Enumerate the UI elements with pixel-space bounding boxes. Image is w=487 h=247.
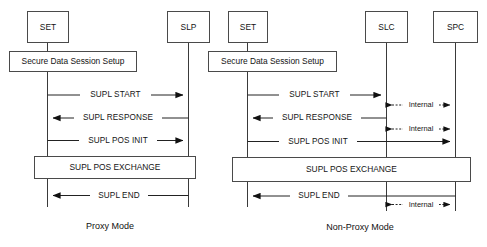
- actor-label-spc-nonproxy: SPC: [447, 22, 464, 32]
- message-internal-2-nonproxy: Internal: [392, 124, 450, 134]
- diagram-canvas: SET SLP Secure Data Session Setup SUPL S…: [0, 0, 487, 247]
- message-label-internal-1-nonproxy: Internal: [409, 100, 434, 109]
- actor-label-set-nonproxy: SET: [240, 22, 256, 32]
- message-label-supl-start-proxy: SUPL START: [90, 90, 140, 99]
- message-label-supl-response-proxy: SUPL RESPONSE: [83, 113, 154, 122]
- message-label-internal-3-nonproxy: Internal: [409, 200, 434, 209]
- bar-label-secure-data-session-setup-proxy: Secure Data Session Setup: [22, 56, 125, 66]
- bar-label-supl-pos-exchange-nonproxy: SUPL POS EXCHANGE: [306, 164, 397, 174]
- message-label-supl-end-proxy: SUPL END: [98, 191, 139, 200]
- message-label-supl-start-nonproxy: SUPL START: [289, 90, 339, 99]
- actor-label-slc-nonproxy: SLC: [378, 22, 394, 32]
- message-supl-response-nonproxy: SUPL RESPONSE: [253, 113, 387, 124]
- proxy-mode-diagram: SET SLP Secure Data Session Setup SUPL S…: [10, 12, 210, 232]
- message-internal-1-nonproxy: Internal: [392, 100, 450, 110]
- caption-proxy-mode: Proxy Mode: [86, 221, 134, 231]
- actor-label-set-proxy: SET: [40, 22, 56, 32]
- message-label-internal-2-nonproxy: Internal: [409, 124, 434, 133]
- message-supl-start-proxy: SUPL START: [48, 90, 184, 101]
- message-label-supl-response-nonproxy: SUPL RESPONSE: [282, 113, 353, 122]
- bar-label-secure-data-session-setup-nonproxy: Secure Data Session Setup: [221, 56, 324, 66]
- sequence-diagram-figure: SET SLP Secure Data Session Setup SUPL S…: [0, 0, 487, 247]
- message-supl-response-proxy: SUPL RESPONSE: [53, 113, 189, 124]
- message-label-supl-end-nonproxy: SUPL END: [298, 191, 339, 200]
- non-proxy-mode-diagram: SET SLC SPC Secure Data Session Setup SU…: [209, 12, 478, 233]
- message-label-supl-pos-init-nonproxy: SUPL POS INIT: [288, 137, 348, 146]
- message-supl-pos-init-nonproxy: SUPL POS INIT: [248, 136, 451, 147]
- message-internal-3-nonproxy: Internal: [392, 200, 450, 210]
- message-label-supl-pos-init-proxy: SUPL POS INIT: [88, 136, 148, 145]
- message-supl-start-nonproxy: SUPL START: [248, 90, 382, 101]
- actor-label-slp-proxy: SLP: [181, 22, 197, 32]
- message-supl-pos-init-proxy: SUPL POS INIT: [48, 135, 184, 146]
- message-supl-end-proxy: SUPL END: [53, 190, 189, 201]
- bar-label-supl-pos-exchange-proxy: SUPL POS EXCHANGE: [70, 162, 161, 172]
- caption-non-proxy-mode: Non-Proxy Mode: [326, 222, 394, 232]
